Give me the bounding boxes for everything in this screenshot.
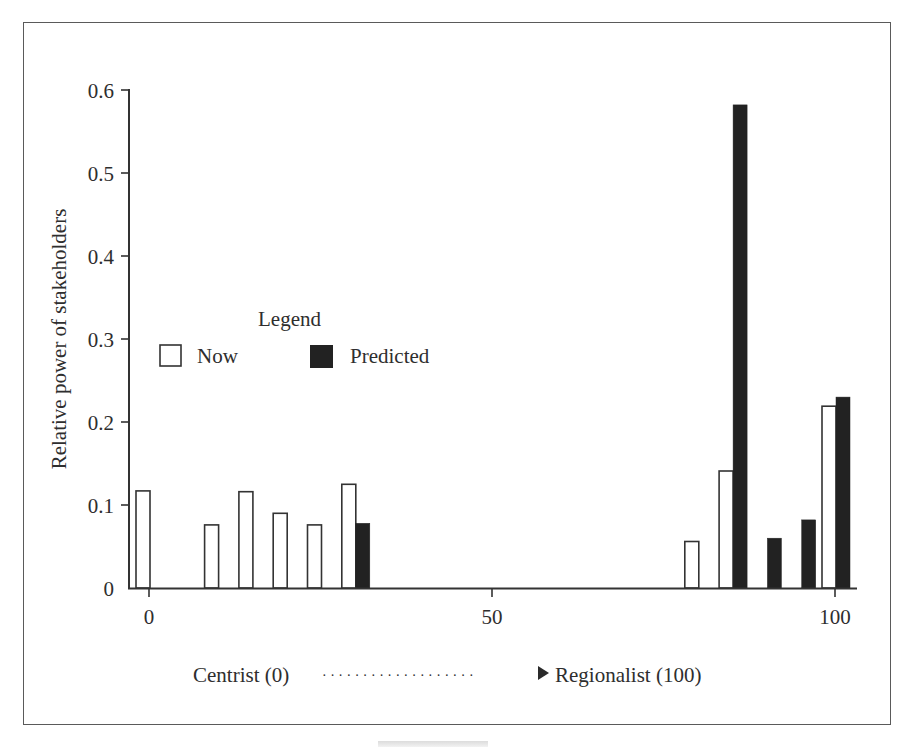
y-tick-label: 0 xyxy=(104,577,115,601)
bar-predicted-95 xyxy=(802,520,816,588)
y-axis-title: Relative power of stakeholders xyxy=(47,209,71,470)
y-ticks: 00.10.20.30.40.50.6 xyxy=(88,79,129,601)
bar-now-10 xyxy=(205,525,219,588)
bar-predicted-90 xyxy=(767,538,781,588)
axes-layer xyxy=(128,89,857,589)
bar-now-25 xyxy=(308,525,322,588)
y-tick-label: 0.6 xyxy=(88,79,114,103)
caption-dots: · · · · · · · · · · · · · · · · · · · xyxy=(322,668,474,683)
bar-predicted-85 xyxy=(733,105,747,588)
legend-title: Legend xyxy=(258,307,321,331)
bar-now-30 xyxy=(342,484,356,588)
x-ticks: 050100 xyxy=(144,589,851,629)
y-tick-label: 0.2 xyxy=(88,411,114,435)
bar-now-80 xyxy=(685,542,699,589)
legend-label-now: Now xyxy=(197,344,239,368)
legend-label-predicted: Predicted xyxy=(350,344,430,368)
legend: Legend Now Predicted xyxy=(160,307,430,368)
caption-right: Regionalist (100) xyxy=(555,663,701,687)
x-tick-label: 50 xyxy=(482,605,503,629)
bar-predicted-100 xyxy=(836,397,850,588)
bar-chart: 00.10.20.30.40.50.6 050100 Relative powe… xyxy=(0,0,909,747)
bar-now-100 xyxy=(822,406,836,588)
x-tick-label: 100 xyxy=(819,605,851,629)
bar-now-85 xyxy=(719,471,733,588)
bar-now-15 xyxy=(239,492,253,588)
y-tick-label: 0.3 xyxy=(88,328,114,352)
arrow-right-icon xyxy=(538,666,549,680)
bar-predicted-30 xyxy=(356,523,370,588)
bar-now-20 xyxy=(273,513,287,588)
y-tick-label: 0.4 xyxy=(88,245,115,269)
legend-swatch-now xyxy=(160,345,181,366)
caption-left: Centrist (0) xyxy=(193,663,289,687)
bar-now-0 xyxy=(136,491,150,588)
axis-direction-caption: Centrist (0) · · · · · · · · · · · · · ·… xyxy=(193,663,701,687)
figure-caption-cutoff xyxy=(378,741,488,747)
legend-swatch-predicted xyxy=(310,345,333,368)
y-tick-label: 0.1 xyxy=(88,494,114,518)
bars-layer xyxy=(136,105,850,588)
x-tick-label: 0 xyxy=(144,605,155,629)
y-tick-label: 0.5 xyxy=(88,162,114,186)
